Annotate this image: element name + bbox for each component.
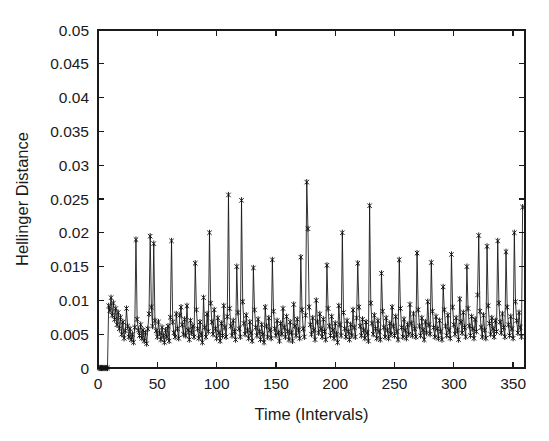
hellinger-distance-chart: 00.0050.010.0150.020.0250.030.0350.040.0… (0, 0, 549, 441)
chart-figure: 00.0050.010.0150.020.0250.030.0350.040.0… (0, 0, 549, 441)
x-tick-label: 100 (204, 375, 230, 392)
x-axis-title: Time (Intervals) (255, 405, 369, 423)
y-tick-label: 0.03 (59, 157, 89, 174)
y-tick-label: 0.035 (50, 123, 89, 140)
x-tick-label: 250 (382, 375, 408, 392)
y-tick-label: 0.045 (50, 55, 89, 72)
data-series-layer (97, 179, 525, 371)
x-tick-label: 50 (149, 375, 167, 392)
y-tick-label: 0.015 (50, 258, 89, 275)
x-tick-label: 200 (322, 375, 348, 392)
series-markers (97, 179, 525, 371)
x-tick-label: 350 (500, 375, 526, 392)
y-tick-label: 0 (80, 360, 89, 377)
y-tick-label: 0.025 (50, 191, 89, 208)
y-tick-label: 0.04 (59, 89, 90, 106)
y-tick-label: 0.005 (50, 326, 89, 343)
y-tick-label: 0.05 (59, 22, 89, 39)
x-tick-label: 300 (441, 375, 467, 392)
y-tick-label: 0.02 (59, 224, 89, 241)
y-tick-label: 0.01 (59, 292, 89, 309)
x-tick-label: 0 (94, 375, 103, 392)
y-axis-title: Hellinger Distance (13, 132, 31, 266)
x-tick-label: 150 (263, 375, 289, 392)
